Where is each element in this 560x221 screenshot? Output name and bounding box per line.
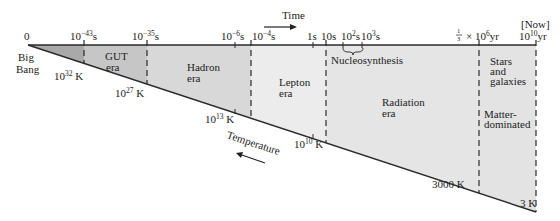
svg-text:era: era xyxy=(106,61,120,73)
svg-text:× 106yr: × 106yr xyxy=(466,29,499,42)
temperature-direction: Temperature xyxy=(225,128,282,157)
time-title: Time xyxy=(282,9,305,21)
svg-text:era: era xyxy=(279,87,293,99)
svg-text:era: era xyxy=(187,72,201,84)
time-label-0: 0 xyxy=(24,30,30,42)
time-label-1e-35: 10−35s xyxy=(132,29,159,42)
svg-text:3: 3 xyxy=(457,35,460,42)
svg-text:Bang: Bang xyxy=(16,63,40,75)
svg-text:era: era xyxy=(382,107,396,119)
temp-label-3k: 3 K xyxy=(520,197,536,209)
time-label-1e-6: 10−6s xyxy=(221,29,244,42)
svg-text:galaxies: galaxies xyxy=(490,75,526,87)
time-label-10s: 10s xyxy=(321,30,336,42)
big-bang-label: Big Bang xyxy=(16,51,40,75)
svg-text:dominated: dominated xyxy=(484,118,531,130)
time-label-third-million-years: 1 3 × 106yr xyxy=(456,27,499,42)
temperature-arrow-icon xyxy=(236,152,265,163)
svg-text:Temperature: Temperature xyxy=(225,128,282,157)
temp-label-3000k: 3000 K xyxy=(432,178,465,190)
time-label-1e2: 102s xyxy=(341,29,360,42)
time-label-1e10yr: 1010yr xyxy=(519,29,547,42)
time-label-1e-4: 10−4s xyxy=(252,29,275,42)
temp-label-1e27: 1027 K xyxy=(115,86,144,99)
svg-text:1: 1 xyxy=(457,27,460,34)
cosmic-timeline-diagram: Time 0 10−43s 10−35s 10−6s 10−4s 1s 10s … xyxy=(0,0,560,221)
time-label-1s: 1s xyxy=(307,30,317,42)
radiation-era-region xyxy=(326,45,479,193)
temp-label-1e13: 1013 K xyxy=(205,112,234,125)
svg-text:Big: Big xyxy=(18,51,34,63)
time-label-1e3: 103s xyxy=(361,29,380,42)
temp-label-1e10: 1010 K xyxy=(294,137,323,150)
temp-label-1e32: 1032 K xyxy=(54,69,83,82)
nucleosynthesis-label: Nucleosynthesis xyxy=(331,54,403,66)
